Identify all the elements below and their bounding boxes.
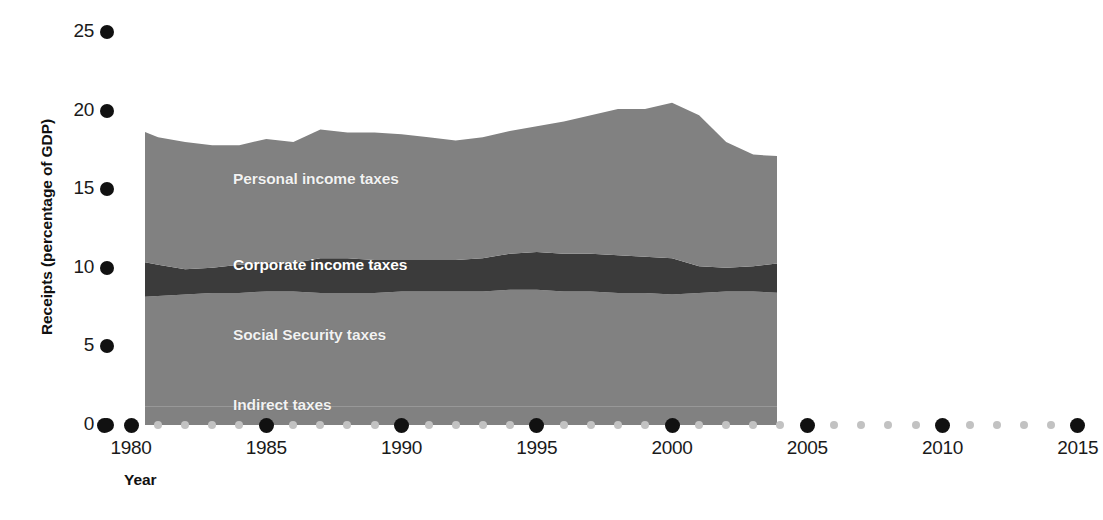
x-axis-tick-label: 2010 (908, 437, 978, 459)
area-series-social-security-taxes (145, 290, 777, 406)
x-axis-minor-dot (560, 421, 568, 429)
x-axis-minor-dot (371, 421, 379, 429)
y-axis-tick-label: 10 (34, 256, 94, 278)
x-axis-minor-dot (912, 421, 920, 429)
x-axis-minor-dot (425, 421, 433, 429)
x-axis-major-dot (665, 418, 680, 433)
x-axis-tick-label: 2000 (637, 437, 707, 459)
series-label-social-security-taxes: Social Security taxes (233, 326, 386, 344)
y-axis-tick-label: 20 (34, 99, 94, 121)
stacked-area-svg (145, 20, 777, 426)
series-label-indirect-taxes: Indirect taxes (233, 396, 332, 414)
x-axis-minor-dot (776, 421, 784, 429)
x-axis-minor-dot (289, 421, 297, 429)
x-axis-minor-dot (993, 421, 1001, 429)
x-axis-minor-dot (343, 421, 351, 429)
x-axis-tick-label: 1985 (231, 437, 301, 459)
x-axis-major-dot (97, 418, 112, 433)
y-axis-tick-dot (100, 339, 114, 353)
x-axis-minor-dot (641, 421, 649, 429)
x-axis-major-dot (394, 418, 409, 433)
x-axis-major-dot (1070, 418, 1085, 433)
y-axis-tick-dot (100, 25, 114, 39)
x-axis-minor-dot (587, 421, 595, 429)
x-axis-minor-dot (749, 421, 757, 429)
x-axis-title: Year (124, 471, 156, 489)
x-axis-minor-dot (1047, 421, 1055, 429)
x-axis-minor-dot (479, 421, 487, 429)
x-axis-minor-dot (857, 421, 865, 429)
x-axis-major-dot (124, 418, 139, 433)
series-label-corporate-income-taxes: Corporate income taxes (233, 256, 407, 274)
x-axis-major-dot (800, 418, 815, 433)
x-axis-minor-dot (154, 421, 162, 429)
y-axis-tick-dot (100, 261, 114, 275)
x-axis-minor-dot (966, 421, 974, 429)
series-label-personal-income-taxes: Personal income taxes (233, 170, 399, 188)
x-axis-tick-label: 2015 (1043, 437, 1103, 459)
x-axis-minor-dot (695, 421, 703, 429)
x-axis-tick-label: 1980 (96, 437, 166, 459)
x-axis-minor-dot (452, 421, 460, 429)
x-axis-minor-dot (722, 421, 730, 429)
x-axis-major-dot (529, 418, 544, 433)
x-axis-minor-dot (181, 421, 189, 429)
x-axis-minor-dot (208, 421, 216, 429)
x-axis-tick-label: 1995 (502, 437, 572, 459)
y-axis-tick-dot (100, 104, 114, 118)
x-axis-minor-dot (1020, 421, 1028, 429)
x-axis-minor-dot (884, 421, 892, 429)
x-axis-tick-label: 1990 (367, 437, 437, 459)
y-axis-tick-dot (100, 182, 114, 196)
x-axis-major-dot (259, 418, 274, 433)
x-axis-major-dot (935, 418, 950, 433)
y-axis-tick-label: 5 (34, 334, 94, 356)
x-axis-minor-dot (830, 421, 838, 429)
x-axis-minor-dot (316, 421, 324, 429)
y-axis-tick-label: 15 (34, 177, 94, 199)
y-axis-tick-label: 25 (34, 20, 94, 42)
plot-area: Personal income taxesCorporate income ta… (145, 20, 777, 426)
x-axis-tick-label: 2005 (772, 437, 842, 459)
x-axis-minor-dot (506, 421, 514, 429)
x-axis-minor-dot (235, 421, 243, 429)
y-axis-tick-label: 0 (34, 413, 94, 435)
x-axis-minor-dot (614, 421, 622, 429)
